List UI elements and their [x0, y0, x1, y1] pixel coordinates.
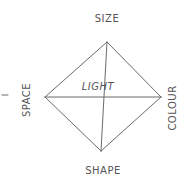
- diamond-diagram: SIZE SHAPE LIGHT SPACE COLOUR: [0, 0, 191, 185]
- edge-top-right: [107, 42, 161, 97]
- label-colour: COLOUR: [167, 85, 178, 130]
- label-light: LIGHT: [82, 81, 115, 92]
- label-space: SPACE: [21, 83, 32, 117]
- edge-bottom-left: [45, 97, 101, 151]
- label-size: SIZE: [95, 13, 119, 24]
- edge-bottom-right: [101, 97, 161, 151]
- label-shape: SHAPE: [85, 165, 121, 176]
